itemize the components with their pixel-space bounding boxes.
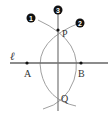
svg-text:3: 3	[56, 7, 60, 14]
label-b: B	[78, 68, 85, 79]
step-badge-1: 1	[27, 14, 36, 23]
svg-text:1: 1	[29, 15, 33, 22]
arc-from-a	[38, 20, 76, 109]
label-p: P	[62, 28, 68, 39]
point-p	[56, 28, 59, 31]
perpendicular-bisector-diagram: ℓ A B P Q 1 3 2	[0, 0, 112, 117]
point-b	[79, 61, 82, 64]
label-q: Q	[61, 93, 69, 104]
step-badge-2: 2	[76, 19, 85, 28]
point-a	[25, 61, 28, 64]
step-badge-3: 3	[54, 6, 63, 15]
label-a: A	[24, 68, 32, 79]
svg-text:2: 2	[78, 20, 82, 27]
line-l-label: ℓ	[10, 50, 15, 62]
